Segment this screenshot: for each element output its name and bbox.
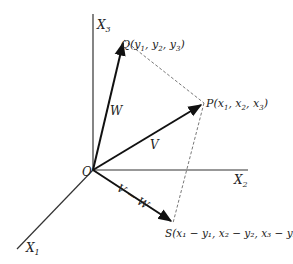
point-p-label: P(x1, x2, x3) bbox=[205, 97, 268, 112]
vector-v-minus-w-label: V − W bbox=[114, 182, 152, 213]
dashed-p-to-s bbox=[173, 103, 204, 223]
x1-axis-label: X1 bbox=[25, 241, 40, 257]
vector-diagram: X3 X2 X1 O Q(y1, y2, y3) P(x1, x2, x3) S… bbox=[0, 0, 293, 264]
point-s-label: S(x₁ − y₁, x₂ − y₂, x₃ − y₃) bbox=[165, 227, 293, 239]
origin-label: O bbox=[82, 165, 92, 179]
point-q-label: Q(y1, y2, y3) bbox=[121, 38, 185, 53]
vector-w-label: W bbox=[110, 104, 124, 118]
x1-axis bbox=[17, 170, 93, 249]
x3-axis-label: X3 bbox=[96, 18, 111, 34]
vector-v-label: V bbox=[150, 138, 160, 152]
x2-axis-label: X2 bbox=[233, 173, 248, 189]
